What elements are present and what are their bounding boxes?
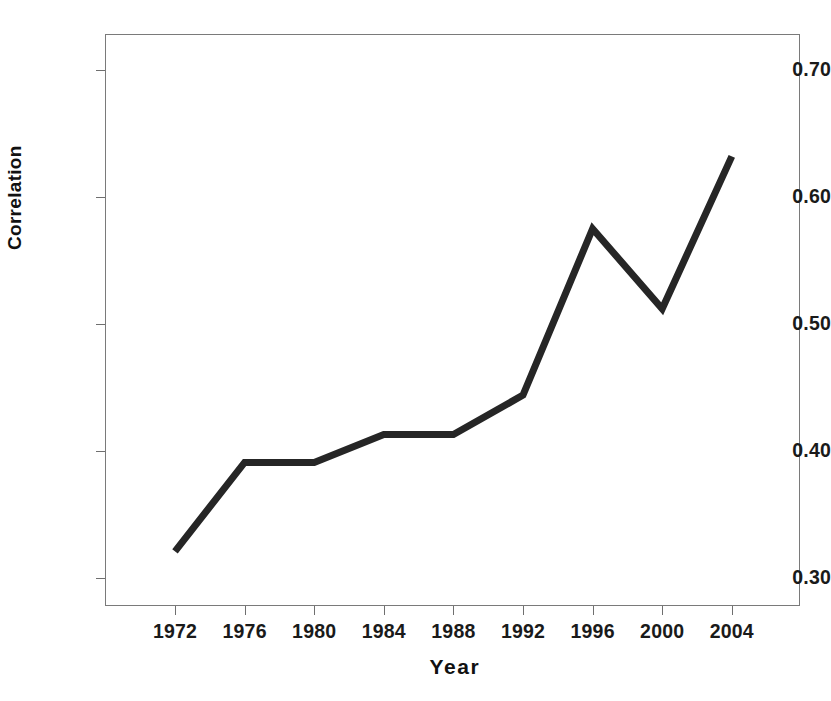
chart-container: 0.30 0.40 0.50 0.60 0.70 1972 1976 1980 … bbox=[0, 0, 831, 701]
x-tick-mark bbox=[384, 606, 385, 615]
y-tick-mark bbox=[96, 451, 105, 452]
x-tick-mark bbox=[314, 606, 315, 615]
x-tick-label-2004: 2004 bbox=[672, 622, 792, 642]
y-tick-label-060: 0.60 bbox=[743, 187, 831, 207]
correlation-line-series bbox=[175, 156, 732, 551]
y-tick-label-070: 0.70 bbox=[743, 60, 831, 80]
plot-area bbox=[105, 34, 800, 606]
x-tick-mark bbox=[245, 606, 246, 615]
y-tick-mark bbox=[96, 324, 105, 325]
y-axis-title: Correlation bbox=[4, 145, 26, 250]
y-tick-mark bbox=[96, 197, 105, 198]
y-tick-label-030: 0.30 bbox=[743, 568, 831, 588]
y-tick-label-050: 0.50 bbox=[743, 314, 831, 334]
x-tick-mark bbox=[593, 606, 594, 615]
x-tick-mark bbox=[175, 606, 176, 615]
y-tick-mark bbox=[96, 578, 105, 579]
x-tick-mark bbox=[662, 606, 663, 615]
x-axis-title: Year bbox=[355, 655, 555, 679]
x-tick-mark bbox=[732, 606, 733, 615]
y-tick-mark bbox=[96, 70, 105, 71]
x-tick-mark bbox=[523, 606, 524, 615]
y-tick-label-040: 0.40 bbox=[743, 441, 831, 461]
x-tick-mark bbox=[453, 606, 454, 615]
